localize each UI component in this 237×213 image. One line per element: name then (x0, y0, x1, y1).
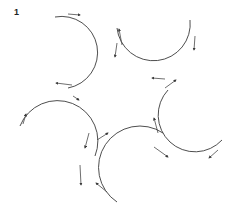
arc-top-left (55, 14, 117, 88)
arrow-icon (68, 14, 80, 15)
arrow-icon (73, 96, 79, 100)
arrow-icon (194, 36, 195, 50)
arrow-icon (96, 183, 107, 192)
arrow-icon (56, 83, 72, 85)
arrow-icon (115, 43, 117, 57)
arc-right (154, 80, 222, 158)
arc-left (20, 96, 98, 156)
arc-bottom (80, 126, 163, 202)
arc-top-right (117, 20, 195, 79)
arrow-icon (152, 78, 165, 79)
interlocking-arcs-diagram (0, 0, 237, 213)
arrow-icon (85, 133, 89, 148)
arrow-icon (80, 165, 81, 185)
arrow-icon (154, 118, 158, 133)
arrow-icon (154, 147, 168, 157)
arrow-icon (209, 150, 218, 158)
arrow-icon (97, 133, 108, 140)
arrow-icon (165, 80, 176, 88)
